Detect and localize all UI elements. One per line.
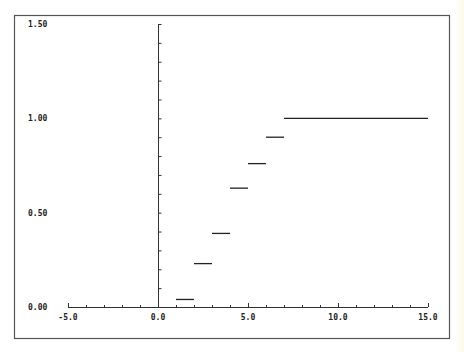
chart-container: 0.000.501.001.50 -5.00.05.010.015.0 — [0, 0, 464, 352]
y-tick-label: 1.00 — [28, 114, 47, 123]
chart-frame — [15, 16, 450, 339]
x-axis-labels: -5.00.05.010.015.0 — [58, 313, 437, 322]
x-tick-label: 10.0 — [328, 313, 347, 322]
x-tick-label: 5.0 — [241, 313, 256, 322]
y-tick-label: 0.00 — [28, 303, 47, 312]
y-tick-label: 0.50 — [28, 209, 47, 218]
step-segments — [176, 118, 428, 299]
step-chart: 0.000.501.001.50 -5.00.05.010.015.0 — [0, 0, 464, 352]
x-tick-label: 15.0 — [418, 313, 437, 322]
y-axis-labels: 0.000.501.001.50 — [28, 20, 47, 312]
x-tick-label: -5.0 — [58, 313, 77, 322]
axes — [68, 24, 429, 308]
x-tick-label: 0.0 — [151, 313, 166, 322]
y-tick-label: 1.50 — [28, 20, 47, 29]
scan-edge-tint — [454, 0, 464, 352]
